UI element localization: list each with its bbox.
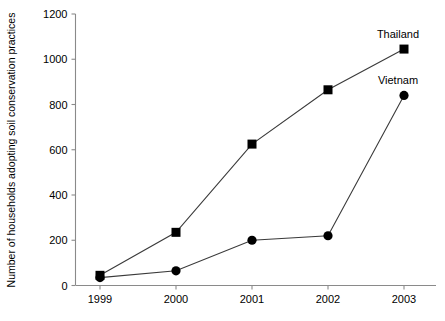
y-tick-label: 200 xyxy=(49,234,67,246)
data-point-marker xyxy=(399,91,408,100)
y-tick-label: 400 xyxy=(49,189,67,201)
series-label-vietnam: Vietnam xyxy=(378,74,418,86)
y-tick-label: 1200 xyxy=(43,8,67,20)
data-point-marker xyxy=(172,228,181,237)
y-axis: 020040060080010001200 xyxy=(43,8,75,292)
series-vietnam xyxy=(95,91,408,282)
series-label-thailand: Thailand xyxy=(377,28,419,40)
x-tick-label: 2000 xyxy=(164,293,188,305)
data-point-marker xyxy=(247,236,256,245)
series-inline-labels: ThailandVietnam xyxy=(377,28,419,86)
x-axis: 19992000200120022003 xyxy=(76,286,437,305)
x-tick-label: 2001 xyxy=(240,293,264,305)
y-tick-label: 600 xyxy=(49,144,67,156)
data-point-marker xyxy=(324,85,333,94)
data-point-marker xyxy=(95,273,104,282)
y-axis-ticks xyxy=(72,14,76,286)
data-point-marker xyxy=(171,266,180,275)
series-line-vietnam xyxy=(100,95,404,277)
y-tick-label: 800 xyxy=(49,99,67,111)
y-axis-tick-labels: 020040060080010001200 xyxy=(43,8,67,292)
x-axis-ticks xyxy=(100,286,404,290)
x-axis-tick-labels: 19992000200120022003 xyxy=(88,293,416,305)
data-point-marker xyxy=(248,140,257,149)
series-layer xyxy=(95,45,408,283)
data-point-marker xyxy=(400,45,409,54)
line-chart: 020040060080010001200 199920002001200220… xyxy=(0,0,445,321)
chart-container: 020040060080010001200 199920002001200220… xyxy=(0,0,445,321)
y-axis-title: Number of households adopting soil conse… xyxy=(5,13,17,288)
x-tick-label: 1999 xyxy=(88,293,112,305)
y-tick-label: 0 xyxy=(61,280,67,292)
x-tick-label: 2003 xyxy=(392,293,416,305)
y-tick-label: 1000 xyxy=(43,53,67,65)
data-point-marker xyxy=(323,231,332,240)
x-tick-label: 2002 xyxy=(316,293,340,305)
